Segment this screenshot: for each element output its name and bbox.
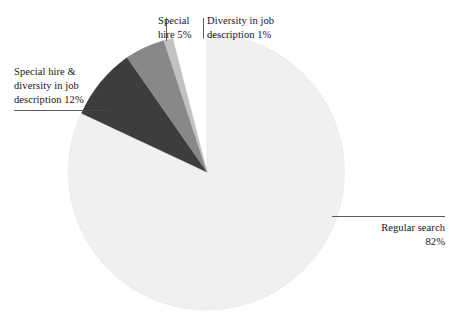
pie-chart-canvas [0, 0, 450, 325]
pie-label-special-hire: Special hire 5% [158, 14, 202, 42]
pie-label-regular-search: Regular search 82% [350, 221, 445, 249]
pie-label-special-hire-diversity: Special hire & diversity in job descript… [14, 65, 118, 107]
pie-chart: Special hire & diversity in job descript… [0, 0, 450, 325]
pie-label-diversity-job-description: Diversity in job description 1% [207, 14, 299, 42]
